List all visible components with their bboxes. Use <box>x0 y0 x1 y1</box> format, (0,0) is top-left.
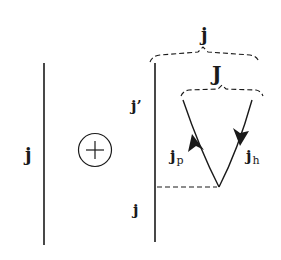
circled-plus-icon <box>79 134 112 167</box>
particle-label-main: j <box>170 147 175 165</box>
outer-brace-label: j <box>201 26 208 44</box>
coupling-diagram: j j’ j j J jp jh <box>0 0 281 260</box>
hole-label: jh <box>246 149 260 166</box>
inner-brace-label: J <box>212 64 221 84</box>
particle-label: jp <box>170 149 183 166</box>
hole-line <box>219 100 252 187</box>
right-line-lower-label: j <box>133 203 138 218</box>
inner-coupling-brace <box>181 85 263 96</box>
left-line-label: j <box>25 146 32 164</box>
right-line-upper-label: j’ <box>131 99 142 114</box>
particle-line <box>183 100 219 187</box>
diagram-graphics <box>0 0 281 260</box>
arrow-down-icon <box>233 128 249 146</box>
hole-label-sub: h <box>252 154 259 167</box>
particle-label-sub: p <box>176 154 183 167</box>
outer-coupling-brace <box>150 47 259 62</box>
hole-label-main: j <box>246 147 251 165</box>
